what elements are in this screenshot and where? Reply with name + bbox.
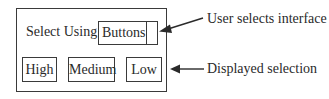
option-low-button[interactable]: Low	[126, 57, 162, 82]
dropdown-selected-value: Buttons	[99, 22, 146, 44]
annotation-user-selects-interface: User selects interface	[207, 11, 327, 27]
option-high-button[interactable]: High	[22, 57, 57, 82]
select-using-label: Select Using	[26, 24, 97, 40]
annotation-displayed-selection: Displayed selection	[207, 61, 317, 77]
dropdown-toggle-button[interactable]	[146, 22, 157, 44]
interface-dropdown[interactable]: Buttons	[98, 21, 158, 45]
arrow-to-options-icon	[170, 65, 204, 74]
option-medium-button[interactable]: Medium	[68, 57, 115, 82]
